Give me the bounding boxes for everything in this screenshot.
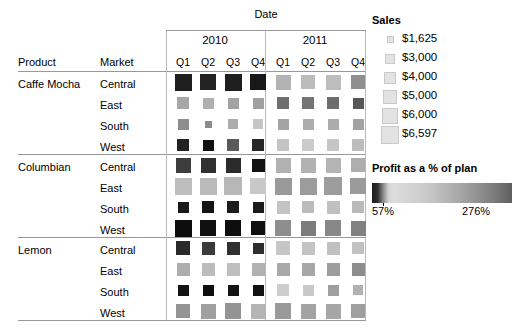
heatmap-cell[interactable] — [275, 303, 291, 319]
heatmap-cell[interactable] — [205, 121, 212, 128]
heatmap-cell[interactable] — [203, 140, 214, 151]
heatmap-cell[interactable] — [352, 263, 365, 276]
heatmap-cell[interactable] — [302, 201, 314, 213]
heatmap-cell[interactable] — [177, 263, 190, 276]
heatmap-cell[interactable] — [252, 263, 265, 276]
heatmap-cell[interactable] — [225, 303, 241, 319]
heatmap-cell[interactable] — [252, 159, 265, 172]
heatmap-cell[interactable] — [352, 139, 364, 151]
market-label-row-9[interactable]: East — [100, 265, 122, 277]
heatmap-cell[interactable] — [227, 263, 240, 276]
heatmap-cell[interactable] — [253, 98, 264, 109]
heatmap-cell[interactable] — [201, 158, 216, 173]
heatmap-cell[interactable] — [302, 263, 315, 276]
heatmap-cell[interactable] — [202, 263, 215, 276]
heatmap-cell[interactable] — [303, 285, 314, 296]
heatmap-cell[interactable] — [176, 158, 191, 173]
heatmap-cell[interactable] — [301, 221, 316, 236]
heatmap-cell[interactable] — [225, 220, 241, 236]
heatmap-cell[interactable] — [277, 97, 289, 109]
heatmap-cell[interactable] — [302, 242, 315, 255]
market-label-row-2[interactable]: South — [100, 120, 129, 132]
heatmap-cell[interactable] — [325, 220, 341, 236]
heatmap-cell[interactable] — [326, 75, 341, 90]
heatmap-cell[interactable] — [278, 119, 289, 130]
heatmap-cell[interactable] — [302, 139, 314, 151]
heatmap-cell[interactable] — [351, 158, 365, 172]
heatmap-cell[interactable] — [275, 220, 291, 236]
sales-legend-item[interactable]: $4,000 — [372, 68, 512, 87]
heatmap-cell[interactable] — [253, 119, 263, 129]
heatmap-cell[interactable] — [224, 177, 242, 195]
heatmap-cell[interactable] — [200, 220, 216, 236]
heatmap-cell[interactable] — [301, 158, 316, 173]
heatmap-cell[interactable] — [327, 201, 340, 214]
heatmap-cell[interactable] — [225, 74, 242, 91]
market-label-row-0[interactable]: Central — [100, 78, 135, 90]
heatmap-cell[interactable] — [351, 304, 365, 318]
heatmap-cell[interactable] — [250, 178, 266, 194]
heatmap-cell[interactable] — [328, 285, 339, 296]
heatmap-cell[interactable] — [276, 75, 291, 90]
heatmap-cell[interactable] — [175, 178, 192, 195]
heatmap-cell[interactable] — [178, 285, 189, 296]
heatmap-cell[interactable] — [226, 158, 241, 173]
heatmap-cell[interactable] — [324, 177, 342, 195]
heatmap-cell[interactable] — [203, 285, 214, 296]
heatmap-cell[interactable] — [253, 243, 264, 254]
heatmap-cell[interactable] — [200, 178, 217, 195]
heatmap-cell[interactable] — [176, 241, 190, 255]
market-label-row-1[interactable]: East — [100, 99, 122, 111]
heatmap-cell[interactable] — [353, 119, 364, 130]
heatmap-cell[interactable] — [250, 74, 266, 90]
sales-legend-item[interactable]: $5,000 — [372, 87, 512, 106]
heatmap-cell[interactable] — [303, 119, 314, 130]
heatmap-cell[interactable] — [177, 97, 189, 109]
market-label-row-5[interactable]: East — [100, 182, 122, 194]
market-label-row-3[interactable]: West — [100, 141, 125, 153]
heatmap-cell[interactable] — [227, 139, 239, 151]
heatmap-cell[interactable] — [301, 304, 316, 319]
heatmap-cell[interactable] — [275, 178, 292, 195]
heatmap-cell[interactable] — [328, 119, 339, 130]
market-label-row-10[interactable]: South — [100, 286, 129, 298]
heatmap-cell[interactable] — [276, 241, 290, 255]
heatmap-cell[interactable] — [277, 139, 289, 151]
sales-legend-item[interactable]: $1,625 — [372, 30, 512, 49]
heatmap-cell[interactable] — [277, 201, 290, 214]
heatmap-cell[interactable] — [201, 304, 216, 319]
heatmap-cell[interactable] — [253, 285, 264, 296]
heatmap-cell[interactable] — [202, 242, 215, 255]
heatmap-cell[interactable] — [351, 221, 366, 236]
heatmap-cell[interactable] — [228, 119, 238, 129]
heatmap-cell[interactable] — [301, 75, 315, 89]
heatmap-cell[interactable] — [327, 263, 340, 276]
heatmap-cell[interactable] — [276, 158, 291, 173]
heatmap-cell[interactable] — [228, 98, 239, 109]
market-label-row-6[interactable]: South — [100, 203, 129, 215]
heatmap-cell[interactable] — [203, 98, 214, 109]
heatmap-cell[interactable] — [327, 139, 339, 151]
market-label-row-4[interactable]: Central — [100, 161, 135, 173]
heatmap-cell[interactable] — [277, 284, 289, 296]
heatmap-cell[interactable] — [227, 201, 239, 213]
market-label-row-11[interactable]: West — [100, 307, 125, 319]
heatmap-cell[interactable] — [327, 97, 339, 109]
heatmap-cell[interactable] — [202, 201, 214, 213]
heatmap-cell[interactable] — [178, 202, 189, 213]
heatmap-cell[interactable] — [227, 242, 240, 255]
market-label-row-8[interactable]: Central — [100, 244, 135, 256]
heatmap-cell[interactable] — [327, 242, 340, 255]
heatmap-cell[interactable] — [178, 119, 189, 130]
heatmap-cell[interactable] — [251, 221, 265, 235]
heatmap-cell[interactable] — [353, 285, 363, 295]
heatmap-cell[interactable] — [326, 158, 341, 173]
heatmap-cell[interactable] — [351, 75, 365, 89]
heatmap-cell[interactable] — [352, 242, 364, 254]
sales-legend-item[interactable]: $6,000 — [372, 106, 512, 125]
heatmap-cell[interactable] — [350, 178, 366, 194]
heatmap-cell[interactable] — [176, 304, 190, 318]
heatmap-cell[interactable] — [200, 74, 216, 90]
sales-legend-item[interactable]: $6,597 — [372, 125, 512, 144]
heatmap-cell[interactable] — [228, 285, 239, 296]
